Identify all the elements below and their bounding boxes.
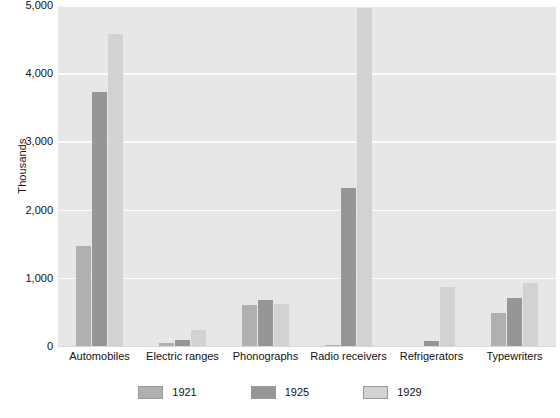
bar[interactable]	[242, 305, 257, 346]
legend-swatch-icon	[363, 386, 388, 399]
bar[interactable]	[258, 300, 273, 346]
legend-label: 1921	[172, 387, 196, 398]
bars-layer	[58, 5, 556, 346]
bar-group	[491, 5, 538, 346]
bar[interactable]	[108, 34, 123, 346]
legend-item[interactable]: 1925	[251, 386, 309, 399]
bar[interactable]	[92, 92, 107, 346]
x-axis-baseline	[58, 346, 556, 347]
y-axis-tick-labels: 01,0002,0003,0004,0005,000	[0, 0, 53, 360]
bar[interactable]	[191, 330, 206, 346]
bar-group	[325, 5, 372, 346]
legend-label: 1929	[397, 387, 421, 398]
x-tick-label: Typewriters	[455, 349, 560, 363]
bar[interactable]	[357, 8, 372, 346]
bar-group	[408, 5, 455, 346]
bar[interactable]	[76, 246, 91, 346]
legend-swatch-icon	[251, 386, 276, 399]
bar[interactable]	[491, 313, 506, 346]
bar[interactable]	[440, 287, 455, 346]
y-tick-label: 5,000	[0, 0, 53, 11]
legend-item[interactable]: 1921	[138, 386, 196, 399]
legend-item[interactable]: 1929	[363, 386, 421, 399]
plot-area	[58, 5, 556, 346]
bar[interactable]	[341, 188, 356, 346]
legend-label: 1925	[285, 387, 309, 398]
bar[interactable]	[507, 298, 522, 346]
bar-group	[159, 5, 206, 346]
legend-swatch-icon	[138, 386, 163, 399]
bar[interactable]	[274, 304, 289, 346]
bar-chart: Thousands 01,0002,0003,0004,0005,000 Aut…	[0, 0, 560, 418]
y-tick-label: 3,000	[0, 136, 53, 147]
x-axis-tick-labels: AutomobilesElectric rangesPhonographsRad…	[58, 349, 556, 369]
chart-legend: 192119251929	[0, 386, 560, 399]
bar-group	[76, 5, 123, 346]
bar-group	[242, 5, 289, 346]
y-tick-label: 2,000	[0, 205, 53, 216]
bar[interactable]	[523, 283, 538, 346]
y-tick-label: 1,000	[0, 273, 53, 284]
y-tick-label: 4,000	[0, 68, 53, 79]
